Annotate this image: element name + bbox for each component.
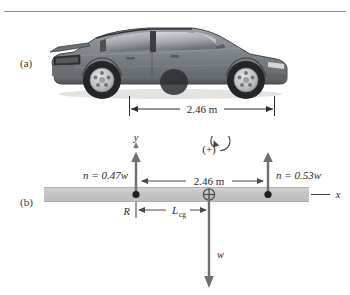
normal-force-front-label: n = 0.53w bbox=[276, 169, 322, 181]
panel-a-dimension: 2.46 m bbox=[128, 96, 276, 120]
panel-label-a: (a) bbox=[20, 57, 32, 69]
wheelbase-dimension-value: 2.46 m bbox=[194, 175, 225, 187]
taillight-shape bbox=[54, 55, 80, 65]
cg-distance-symbol: L bbox=[171, 204, 178, 216]
cg-distance-dimension: L cg bbox=[138, 204, 207, 219]
front-wheel bbox=[227, 61, 265, 99]
sign-convention-symbol: (+) bbox=[202, 143, 216, 156]
panel-a-dimension-value: 2.46 m bbox=[187, 103, 218, 115]
top-divider bbox=[4, 11, 346, 12]
contact-point-front bbox=[264, 191, 271, 198]
cg-distance-subscript: cg bbox=[179, 210, 186, 219]
wheelbase-dimension: 2.46 m bbox=[141, 175, 264, 187]
rear-wheel bbox=[83, 61, 121, 99]
free-body-diagram: x y (+) n = 0.47w bbox=[0, 136, 350, 295]
weight-label: w bbox=[217, 249, 224, 260]
car-side-photo bbox=[44, 14, 294, 104]
x-axis: x bbox=[311, 189, 341, 200]
x-axis-label: x bbox=[335, 189, 341, 200]
sign-convention-marker: (+) bbox=[202, 136, 230, 156]
normal-force-rear-label: n = 0.47w bbox=[83, 169, 129, 181]
pivot-label-R: R bbox=[123, 206, 131, 217]
y-axis-label: y bbox=[133, 136, 139, 143]
contact-point-rear bbox=[132, 191, 139, 198]
pivot-marker-R: R bbox=[123, 202, 136, 218]
physics-figure: (a) bbox=[0, 0, 350, 295]
